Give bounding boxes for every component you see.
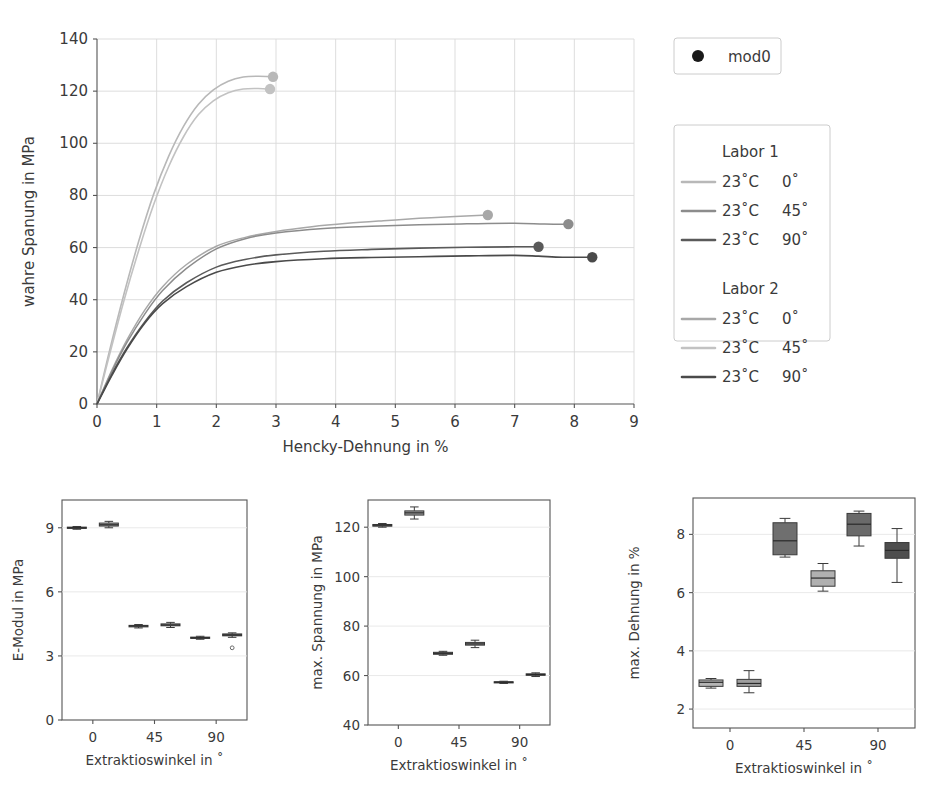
y-axis-label: max. Dehnung in % [626,546,642,679]
legend-angle-label: 0˚ [782,173,799,191]
boxplot-box [737,671,761,693]
plot-area: 0123456789020406080100120140Hencky-Dehnu… [20,30,639,456]
svg-text:60: 60 [69,239,88,257]
max-dehnung-svg: 246804590Extraktioswinkel in ˚max. Dehnu… [615,470,935,803]
svg-text:20: 20 [69,343,88,361]
svg-text:90: 90 [208,729,225,745]
svg-text:40: 40 [69,291,88,309]
boxplot-box [494,681,513,683]
svg-text:0: 0 [726,737,735,753]
svg-text:45: 45 [795,737,812,753]
svg-text:4: 4 [676,643,685,659]
outlier-point [230,646,234,650]
endpoint-marker [268,72,278,82]
endpoint-marker [587,252,597,262]
endpoint-marker [483,210,493,220]
y-axis-label: E-Modul in MPa [10,559,26,662]
mod0-legend-label: mod0 [728,48,771,66]
legend-panel: mod0Labor 123˚C0˚23˚C45˚23˚C90˚Labor 223… [660,20,935,340]
legend-svg: mod0Labor 123˚C0˚23˚C45˚23˚C90˚Labor 223… [660,20,935,340]
box-iqr [773,523,797,555]
boxplot-box [434,651,453,655]
svg-text:0: 0 [45,712,54,728]
svg-text:120: 120 [334,519,360,535]
legend-angle-label: 45˚ [782,202,809,220]
e-modul-svg: 036904590Extraktioswinkel in ˚E-Modul in… [0,470,300,803]
plot-area: 40608010012004590Extraktioswinkel in ˚ma… [309,500,550,773]
svg-text:3: 3 [45,648,54,664]
boxplot-box [373,523,392,527]
x-axis-label: Extraktioswinkel in ˚ [390,757,528,773]
legend-group: mod0Labor 123˚C0˚23˚C45˚23˚C90˚Labor 223… [674,38,830,386]
svg-text:8: 8 [570,413,580,431]
legend-group-heading: Labor 2 [722,280,779,298]
max-spannung-svg: 40608010012004590Extraktioswinkel in ˚ma… [300,470,600,803]
plot-frame [62,500,247,720]
svg-text:100: 100 [334,569,360,585]
box-iqr [699,680,723,686]
svg-text:6: 6 [45,584,54,600]
svg-text:4: 4 [331,413,341,431]
svg-text:7: 7 [510,413,520,431]
svg-text:2: 2 [676,701,685,717]
endpoint-marker [265,84,275,94]
y-axis-label: max. Spannung in MPa [309,535,325,690]
plot-frame [693,498,915,728]
legend-temp-label: 23˚C [722,173,759,191]
legend-temp-label: 23˚C [722,310,759,328]
svg-text:6: 6 [676,585,685,601]
svg-text:80: 80 [69,186,88,204]
svg-text:2: 2 [212,413,222,431]
max-dehnung-boxplot: 246804590Extraktioswinkel in ˚max. Dehnu… [615,470,935,803]
e-modul-boxplot: 036904590Extraktioswinkel in ˚E-Modul in… [0,470,300,803]
mod0-marker-icon [692,50,704,62]
boxplot-box [67,526,86,529]
endpoint-marker [563,219,573,229]
legend-angle-label: 0˚ [782,310,799,328]
legend-temp-label: 23˚C [722,202,759,220]
x-axis-label: Extraktioswinkel in ˚ [735,760,873,776]
legend-group-heading: Labor 1 [722,143,779,161]
svg-text:0: 0 [394,734,403,750]
svg-text:120: 120 [59,82,88,100]
svg-text:8: 8 [676,526,685,542]
series-curve [97,247,539,404]
boxplot-box [847,511,871,546]
svg-text:1: 1 [152,413,162,431]
plot-frame [368,500,550,725]
boxplot-box [885,529,909,583]
svg-text:60: 60 [343,668,360,684]
svg-text:3: 3 [271,413,281,431]
svg-text:0: 0 [89,729,98,745]
legend-temp-label: 23˚C [722,339,759,357]
plot-area: 246804590Extraktioswinkel in ˚max. Dehnu… [626,498,915,776]
svg-text:0: 0 [92,413,102,431]
boxplot-box [191,636,210,639]
svg-text:5: 5 [391,413,401,431]
x-axis-label: Hencky-Dehnung in % [282,438,448,456]
svg-text:6: 6 [450,413,460,431]
svg-text:100: 100 [59,134,88,152]
boxplot-box [699,679,723,689]
svg-text:40: 40 [343,717,360,733]
legend-temp-label: 23˚C [722,368,759,386]
max-spannung-boxplot: 40608010012004590Extraktioswinkel in ˚ma… [300,470,600,803]
stress-strain-chart: 0123456789020406080100120140Hencky-Dehnu… [0,0,660,460]
svg-text:9: 9 [45,520,54,536]
boxplot-box [405,507,424,519]
boxplot-box [811,564,835,592]
legend-angle-label: 90˚ [782,231,809,249]
svg-text:0: 0 [78,395,88,413]
x-axis-label: Extraktioswinkel in ˚ [85,752,223,768]
plot-area: 036904590Extraktioswinkel in ˚E-Modul in… [10,500,247,768]
svg-text:90: 90 [511,734,528,750]
svg-text:45: 45 [146,729,163,745]
svg-text:9: 9 [629,413,639,431]
svg-text:45: 45 [450,734,467,750]
svg-text:80: 80 [343,618,360,634]
stress-strain-svg: 0123456789020406080100120140Hencky-Dehnu… [0,0,660,460]
boxplot-box [99,521,118,527]
boxplot-box [161,622,180,627]
svg-text:140: 140 [59,30,88,48]
boxplot-box [223,633,242,650]
